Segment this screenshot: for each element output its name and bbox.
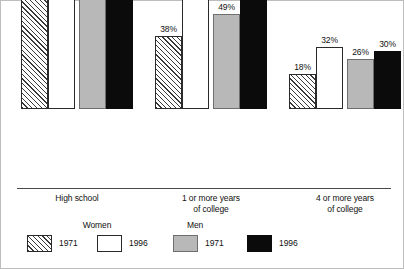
bar-group-bars: 18% 32% 26% 30% (289, 47, 401, 109)
legend-row: 1971 1996 (27, 235, 167, 252)
legend-row: 1971 1996 (173, 235, 323, 252)
bar-value-label: 32% (321, 35, 338, 46)
chart-legend: Women 1971 1996 Men 1971 (1, 220, 404, 269)
bar-women-1971 (21, 0, 48, 109)
category-label-1-or-more-years-of-college: 1 or more years of college (155, 193, 267, 214)
bar-slot: 77% (21, 0, 48, 109)
bar-men-1996 (240, 0, 267, 109)
bar-women-1971 (289, 74, 316, 109)
bar-slot: 63% (240, 0, 267, 109)
bar-slot: 38% (155, 36, 182, 109)
bar-women-1996 (182, 0, 209, 109)
bar-slot: 26% (347, 59, 374, 109)
bar-slot: 18% (289, 74, 316, 109)
plot-area: 77% 88% 78% 87% High school (1, 1, 404, 190)
legend-group-title: Women (27, 220, 167, 231)
legend-entry-men-1996[interactable]: 1996 (247, 235, 321, 252)
bar-women-1996 (316, 47, 343, 109)
bar-slot: 88% (48, 0, 75, 109)
category-label-4-or-more-years-of-college: 4 or more years of college (289, 193, 401, 214)
bar-value-label: 18% (294, 62, 311, 73)
legend-entry-label: 1996 (279, 238, 298, 249)
bar-men-1971 (79, 0, 106, 109)
bar-slot: 49% (213, 14, 240, 109)
legend-entry-women-1996[interactable]: 1996 (97, 235, 167, 252)
legend-entry-label: 1971 (59, 238, 78, 249)
bar-women-1971 (155, 36, 182, 109)
bar-men-1996 (106, 0, 133, 109)
bar-slot: 66% (182, 0, 209, 109)
legend-swatch-gray-icon (173, 235, 198, 252)
bar-slot: 32% (316, 47, 343, 109)
legend-swatch-hatch-icon (27, 235, 52, 252)
bar-value-label: 49% (218, 2, 235, 13)
legend-entry-label: 1971 (205, 238, 224, 249)
bar-value-label: 26% (352, 47, 369, 58)
bar-group-bars: 77% 88% 78% 87% (21, 0, 133, 109)
legend-group-men: Men 1971 1996 (173, 220, 323, 252)
x-axis-line (17, 188, 391, 189)
bar-slot: 78% (79, 0, 106, 109)
legend-group-title: Men (173, 220, 323, 231)
bar-women-1996 (48, 0, 75, 109)
bar-men-1971 (213, 14, 240, 109)
bar-slot: 30% (374, 51, 401, 109)
legend-entry-label: 1996 (129, 238, 148, 249)
bar-men-1996 (374, 51, 401, 109)
bar-group-bars: 38% 66% 49% 63% (155, 0, 267, 109)
legend-swatch-black-icon (247, 235, 272, 252)
bar-value-label: 30% (379, 39, 396, 50)
bar-slot: 87% (106, 0, 133, 109)
legend-swatch-white-icon (97, 235, 122, 252)
bar-men-1971 (347, 59, 374, 109)
bar-chart-figure: 77% 88% 78% 87% High school (0, 0, 404, 269)
bar-value-label: 38% (160, 24, 177, 35)
category-label-high-school: High school (21, 193, 133, 204)
legend-group-women: Women 1971 1996 (27, 220, 167, 252)
legend-entry-men-1971[interactable]: 1971 (173, 235, 247, 252)
legend-entry-women-1971[interactable]: 1971 (27, 235, 97, 252)
